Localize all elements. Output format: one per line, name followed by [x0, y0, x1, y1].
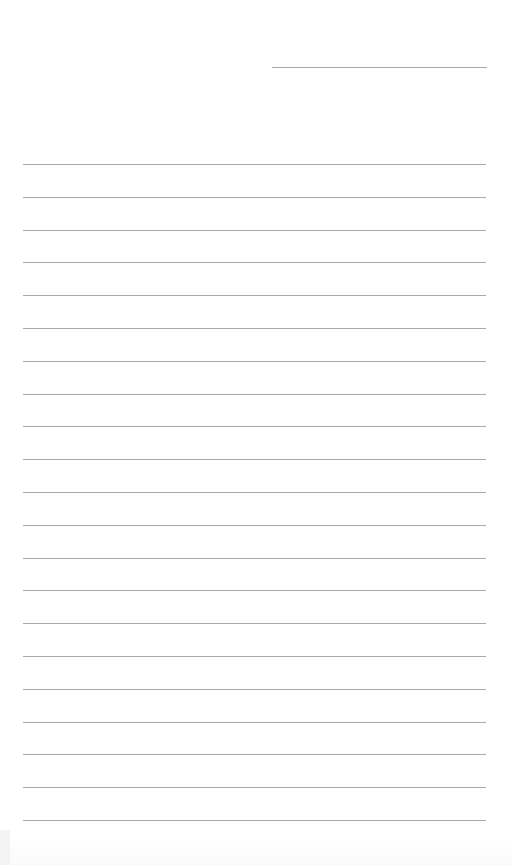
- ruled-line: [23, 394, 486, 395]
- ruled-line: [23, 689, 486, 690]
- ruled-line: [23, 492, 486, 493]
- ruled-line: [23, 262, 486, 263]
- ruled-line: [23, 164, 486, 165]
- ruled-line: [23, 623, 486, 624]
- ruled-line: [23, 722, 486, 723]
- ruled-line: [23, 820, 486, 821]
- ruled-line: [23, 328, 486, 329]
- ruled-line: [23, 426, 486, 427]
- scan-artifact-band: [0, 837, 512, 865]
- ruled-line: [23, 590, 486, 591]
- ruled-line: [23, 459, 486, 460]
- ruled-line: [23, 525, 486, 526]
- lined-page: [0, 0, 512, 865]
- ruled-line: [23, 754, 486, 755]
- ruled-line: [23, 787, 486, 788]
- header-line: [272, 67, 487, 68]
- ruled-line: [23, 558, 486, 559]
- ruled-line: [23, 361, 486, 362]
- ruled-line: [23, 295, 486, 296]
- scan-artifact-corner: [0, 830, 10, 865]
- ruled-line: [23, 197, 486, 198]
- ruled-line: [23, 656, 486, 657]
- ruled-line: [23, 230, 486, 231]
